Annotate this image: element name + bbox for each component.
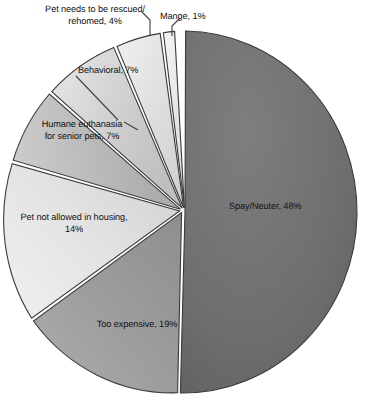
pie-label-spay-neuter: Spay/Neuter, 48% xyxy=(229,200,323,212)
pie-chart: Pet needs to be rescued/ rehomed, 4% Man… xyxy=(0,0,371,404)
pie-label-humane-euthanasia: Humane euthanasia for senior pets, 7% xyxy=(28,118,136,142)
pie-label-mange: Mange, 1% xyxy=(160,10,246,22)
pie-label-pet-needs-rescue-rehome: Pet needs to be rescued/ rehomed, 4% xyxy=(33,3,157,27)
pie-label-behavioral: Behavioral, 7% xyxy=(78,64,174,76)
pie-label-pet-not-allowed-in-housing: Pet not allowed in housing, 14% xyxy=(6,211,142,235)
pie-slice-spay-neuter[interactable] xyxy=(180,31,357,393)
pie-label-too-expensive: Too expensive, 19% xyxy=(84,318,190,330)
